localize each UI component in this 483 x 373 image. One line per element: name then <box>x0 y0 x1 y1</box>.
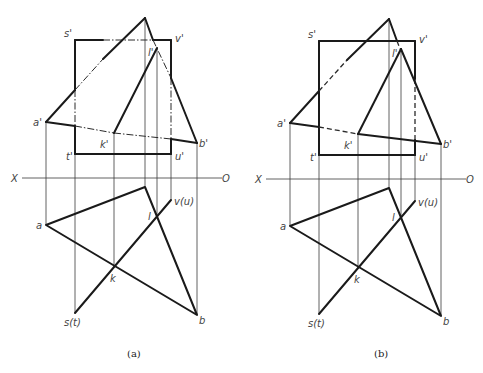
svg-text:v(u): v(u) <box>174 196 194 207</box>
panel-a: s' v' l' a' k' b' t' u' X O v(u) l a k s… <box>10 18 230 359</box>
svg-text:k': k' <box>100 139 109 150</box>
svg-text:X: X <box>10 173 19 184</box>
svg-text:s(t): s(t) <box>64 317 81 328</box>
svg-text:O: O <box>222 173 230 184</box>
svg-text:a': a' <box>33 117 42 128</box>
svg-text:k': k' <box>344 140 353 151</box>
svg-text:t': t' <box>66 151 73 162</box>
caption-a: (a) <box>127 348 141 359</box>
svg-text:l: l <box>148 211 151 222</box>
svg-text:b': b' <box>443 139 452 150</box>
svg-text:l': l' <box>392 48 398 59</box>
svg-text:k: k <box>110 273 117 284</box>
svg-text:O: O <box>466 174 474 185</box>
svg-text:b: b <box>443 316 449 327</box>
svg-text:s': s' <box>308 29 316 40</box>
svg-text:b': b' <box>199 138 208 149</box>
svg-text:a: a <box>280 221 286 232</box>
svg-text:l': l' <box>148 47 154 58</box>
svg-text:b: b <box>199 315 205 326</box>
svg-text:v(u): v(u) <box>418 197 438 208</box>
svg-text:t': t' <box>310 152 317 163</box>
svg-text:u': u' <box>175 151 184 162</box>
panel-b: s' v' l' a' k' b' t' u' X O v(u) l a k s… <box>254 19 474 359</box>
svg-text:l: l <box>392 212 395 223</box>
svg-text:s': s' <box>64 28 72 39</box>
svg-text:u': u' <box>419 152 428 163</box>
caption-b: (b) <box>374 348 388 359</box>
svg-text:a: a <box>36 220 42 231</box>
svg-text:X: X <box>254 174 263 185</box>
svg-text:k: k <box>354 274 361 285</box>
svg-text:v': v' <box>419 34 428 45</box>
projection-diagram: s' v' l' a' k' b' t' u' X O v(u) l a k s… <box>0 0 483 373</box>
svg-text:a': a' <box>277 118 286 129</box>
svg-text:v': v' <box>175 33 184 44</box>
svg-text:s(t): s(t) <box>308 318 325 329</box>
